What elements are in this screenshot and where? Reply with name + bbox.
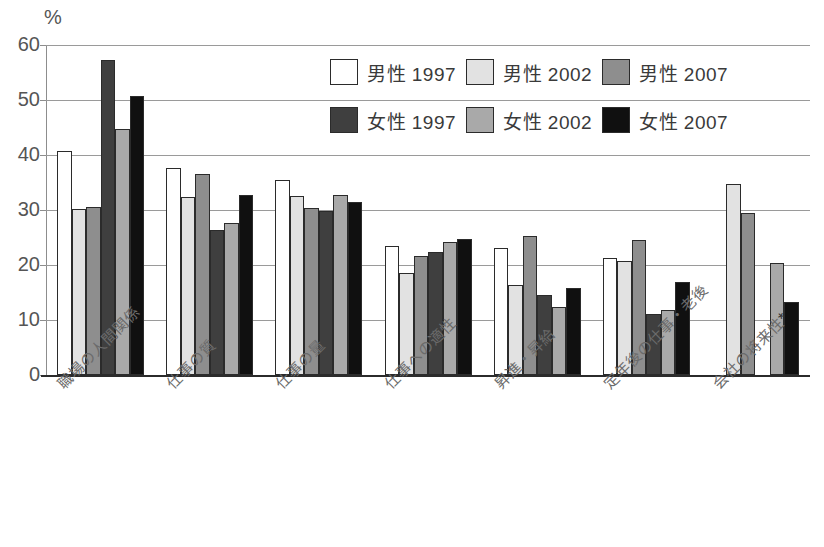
legend-swatch-icon — [330, 59, 358, 85]
bar — [494, 248, 509, 375]
legend-label: 男性 2007 — [639, 59, 728, 86]
legend-swatch-icon — [330, 107, 358, 133]
y-axis-tick-label: 10 — [2, 308, 40, 331]
bar — [385, 246, 400, 375]
legend-label: 女性 1997 — [367, 107, 456, 134]
legend-item: 女性 1997 — [330, 107, 456, 134]
bar — [333, 195, 348, 375]
bar — [57, 151, 72, 375]
legend-item: 男性 2007 — [602, 59, 728, 86]
x-axis-baseline — [41, 375, 810, 377]
legend-item: 女性 2002 — [466, 107, 592, 134]
legend-swatch-icon — [466, 107, 494, 133]
legend-item: 男性 2002 — [466, 59, 592, 86]
legend-swatch-icon — [466, 59, 494, 85]
legend-label: 女性 2002 — [503, 107, 592, 134]
bar — [784, 302, 799, 375]
bar — [457, 239, 472, 375]
legend-item: 女性 2007 — [602, 107, 728, 134]
y-axis-tick-label: 60 — [2, 33, 40, 56]
y-axis-tick-label: 40 — [2, 143, 40, 166]
bar — [348, 202, 363, 375]
bar — [603, 258, 618, 375]
legend-swatch-icon — [602, 59, 630, 85]
legend-label: 女性 2007 — [639, 107, 728, 134]
legend-label: 男性 1997 — [367, 59, 456, 86]
y-axis-tick-labels: 0102030405060 — [0, 45, 40, 375]
y-axis-tick-label: 20 — [2, 253, 40, 276]
y-axis-tick-label: 30 — [2, 198, 40, 221]
bar — [239, 195, 254, 375]
bar — [166, 168, 181, 375]
legend-label: 男性 2002 — [503, 59, 592, 86]
legend-swatch-icon — [602, 107, 630, 133]
y-axis-unit-label: % — [44, 6, 62, 29]
bar — [566, 288, 581, 375]
x-axis-category-labels: 職場の人間関係仕事の質仕事の量仕事への適性昇進・昇給定年後の仕事・老後会社の将来… — [0, 378, 824, 518]
bar-chart: % 0102030405060 職場の人間関係仕事の質仕事の量仕事への適性昇進・… — [0, 0, 824, 547]
chart-legend: 男性 1997男性 2002男性 2007女性 1997女性 2002女性 20… — [330, 48, 728, 144]
y-axis-tick-label: 50 — [2, 88, 40, 111]
bottom-caption — [380, 537, 820, 547]
bar — [130, 96, 145, 375]
bar — [275, 180, 290, 375]
legend-item: 男性 1997 — [330, 59, 456, 86]
bar — [224, 223, 239, 375]
bar — [443, 242, 458, 375]
